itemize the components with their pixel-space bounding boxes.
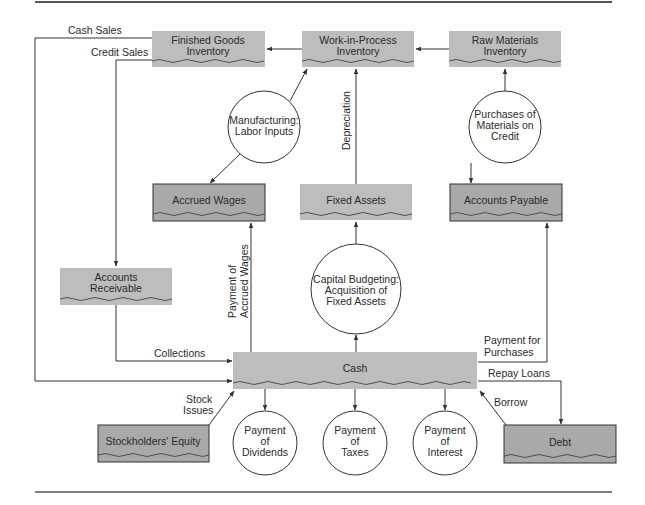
svg-text:Fixed Assets: Fixed Assets — [326, 295, 386, 307]
payment-of-dividends-circle: Payment of Dividends — [233, 411, 297, 475]
fixed-assets-box: Fixed Assets — [300, 184, 412, 220]
accounts-receivable-box: Accounts Receivable — [60, 268, 172, 305]
stock-issues-label-2: Issues — [183, 404, 213, 416]
svg-text:Inventory: Inventory — [483, 45, 527, 57]
cash-sales-label: Cash Sales — [68, 24, 122, 36]
payment-purchases-label-2: Purchases — [484, 346, 534, 358]
payment-of-interest-circle: Payment of Interest — [413, 411, 477, 475]
svg-text:Accounts Payable: Accounts Payable — [464, 194, 548, 206]
svg-text:Fixed Assets: Fixed Assets — [326, 194, 386, 206]
accrued-wages-box: Accrued Wages — [153, 184, 265, 221]
credit-sales-label: Credit Sales — [91, 46, 148, 58]
svg-text:Interest: Interest — [427, 446, 462, 458]
svg-text:Taxes: Taxes — [341, 446, 368, 458]
manufacturing-labor-inputs-circle: Manufacturing: Labor Inputs — [228, 91, 300, 163]
raw-materials-inventory-box: Raw Materials Inventory — [449, 31, 561, 67]
payment-accrued-wages-label-2: Accrued Wages — [238, 244, 250, 318]
svg-text:Stockholders' Equity: Stockholders' Equity — [106, 435, 202, 447]
borrow-label: Borrow — [494, 396, 528, 408]
credit-sales-flow — [116, 60, 152, 266]
svg-text:Credit: Credit — [491, 130, 519, 142]
manufacturing-to-wip-arrow — [290, 69, 307, 101]
cash-box: Cash — [233, 352, 477, 389]
collections-label: Collections — [154, 347, 205, 359]
svg-text:Dividends: Dividends — [242, 446, 288, 458]
capital-budgeting-circle: Capital Budgeting: Acquisition of Fixed … — [311, 244, 401, 334]
depreciation-label: Depreciation — [340, 91, 352, 150]
stockholders-equity-box: Stockholders' Equity — [98, 425, 209, 462]
payment-of-taxes-circle: Payment of Taxes — [323, 411, 387, 475]
svg-text:Labor Inputs: Labor Inputs — [235, 125, 293, 137]
work-in-process-inventory-box: Work-in-Process Inventory — [302, 31, 414, 67]
payment-accrued-wages-label-1: Payment of — [226, 265, 238, 318]
svg-text:Accrued Wages: Accrued Wages — [172, 194, 246, 206]
svg-text:Debt: Debt — [549, 436, 571, 448]
accounts-payable-box: Accounts Payable — [450, 184, 562, 221]
svg-text:Receivable: Receivable — [90, 282, 142, 294]
debt-box: Debt — [504, 425, 616, 463]
purchases-of-materials-circle: Purchases of Materials on Credit — [469, 91, 541, 163]
svg-text:Inventory: Inventory — [186, 45, 230, 57]
finished-goods-inventory-box: Finished Goods Inventory — [152, 31, 265, 67]
cash-flow-cycle-diagram: Finished Goods Inventory Work-in-Process… — [0, 0, 645, 505]
manufacturing-to-accrued-wages-arrow — [210, 154, 240, 183]
repay-loans-label: Repay Loans — [488, 367, 550, 379]
svg-text:Inventory: Inventory — [336, 45, 380, 57]
svg-text:Cash: Cash — [343, 362, 368, 374]
payment-purchases-label-1: Payment for — [484, 334, 541, 346]
